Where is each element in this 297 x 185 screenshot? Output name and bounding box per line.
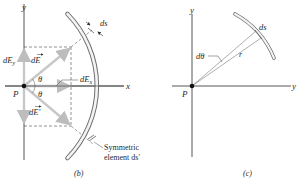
r-label: r xyxy=(239,50,243,59)
panel-c: y y P ds dθ r (c) xyxy=(172,5,296,178)
dEy-label: dEy xyxy=(3,55,15,66)
diagram-canvas: y x P dEy dE θ θ dEx dE' ds Symmetric el… xyxy=(0,0,297,185)
dE-prime-vector xyxy=(24,86,69,124)
y-axis-label-b: y xyxy=(21,2,26,12)
ds-label-b: ds xyxy=(100,18,108,28)
dEx-label: dEx xyxy=(80,74,92,85)
ray-lower xyxy=(192,38,261,86)
y-axis-label-c: y xyxy=(189,5,194,15)
dE-prime-label: dE' xyxy=(29,107,41,118)
dE-label: dE xyxy=(31,55,43,66)
svg-text:dE: dE xyxy=(31,55,41,65)
dtheta-label: dθ xyxy=(196,51,204,61)
point-P-label-c: P xyxy=(181,89,188,99)
symmetric-leader xyxy=(94,142,103,148)
theta-lower-label: θ xyxy=(38,89,42,99)
x-axis-label-b: x xyxy=(125,81,130,91)
point-P-label-b: P xyxy=(12,89,19,99)
ds-label-c: ds xyxy=(259,22,267,32)
symmetric-element-label-line1: Symmetric xyxy=(104,143,140,152)
symmetric-element-label-line2: element ds' xyxy=(104,153,140,162)
svg-text:dE': dE' xyxy=(29,107,40,117)
caption-c: (c) xyxy=(243,169,252,178)
panel-b: y x P dEy dE θ θ dEx dE' ds Symmetric el… xyxy=(3,2,140,178)
caption-b: (b) xyxy=(74,169,84,178)
point-P-c xyxy=(190,84,195,89)
theta-upper-label: θ xyxy=(38,74,42,84)
ds-prime-element-marks xyxy=(88,135,96,141)
point-P-b xyxy=(22,84,27,89)
x-axis-label-c: y xyxy=(291,81,296,91)
